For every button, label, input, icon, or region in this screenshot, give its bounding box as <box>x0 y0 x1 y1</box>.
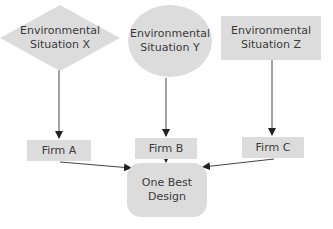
situation-y-circle: EnvironmentalSituation Y <box>128 5 212 77</box>
firm-a-box: Firm A <box>27 140 91 161</box>
one-best-design-box: One BestDesign <box>127 163 207 217</box>
firm-c-box: Firm C <box>242 137 304 158</box>
situation-x-diamond: EnvironmentalSituation X <box>0 5 120 71</box>
arrow-firm-c-to-design <box>203 159 274 167</box>
situation-x-label: EnvironmentalSituation X <box>0 5 120 71</box>
situation-z-rectangle: EnvironmentalSituation Z <box>221 16 321 60</box>
arrow-firm-a-to-design <box>60 162 131 168</box>
firm-b-box: Firm B <box>135 138 197 159</box>
